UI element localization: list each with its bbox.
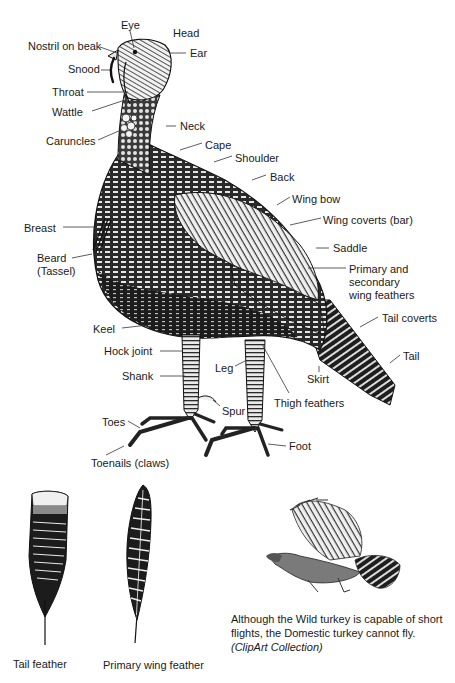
label-toenails: Toenails (claws): [91, 457, 169, 470]
label-throat: Throat: [52, 86, 84, 99]
label-hock-joint: Hock joint: [104, 345, 152, 358]
turkey-anatomy-figure: Eye Head Nostril on beak Ear Snood Throa…: [0, 0, 455, 683]
primary-wing-feather-label: Primary wing feather: [103, 659, 204, 672]
caption-source-text: (ClipArt Collection): [231, 641, 323, 653]
label-cape: Cape: [205, 139, 231, 152]
legs-shape: [130, 335, 282, 455]
label-saddle: Saddle: [333, 242, 367, 255]
primary-wing-feather-illustration: [127, 485, 151, 643]
caption-source: (ClipArt Collection): [231, 640, 455, 654]
label-caruncles: Caruncles: [46, 135, 96, 148]
caption-line-1: Although the Wild turkey is capable of s…: [231, 612, 455, 626]
label-shank: Shank: [122, 370, 153, 383]
label-snood: Snood: [68, 63, 100, 76]
snood-shape: [111, 58, 114, 82]
label-head: Head: [173, 27, 199, 40]
label-skirt: Skirt: [307, 373, 329, 386]
label-foot: Foot: [289, 440, 311, 453]
turkey-illustration: [0, 0, 455, 683]
tail-feather-illustration: [29, 491, 68, 645]
label-shoulder: Shoulder: [235, 152, 279, 165]
label-spur: Spur: [222, 405, 245, 418]
label-neck: Neck: [180, 120, 205, 133]
label-toes: Toes: [102, 416, 125, 429]
label-beard: Beard (Tassel): [37, 252, 76, 278]
caption-line-2: flights, the Domestic turkey cannot fly.: [231, 626, 455, 640]
label-wing-bow: Wing bow: [292, 193, 340, 206]
label-primary-secondary-wing-feathers: Primary and secondary wing feathers: [349, 263, 455, 302]
label-back: Back: [270, 171, 294, 184]
label-wattle: Wattle: [52, 106, 83, 119]
label-breast: Breast: [24, 222, 56, 235]
label-wing-coverts: Wing coverts (bar): [323, 214, 413, 227]
label-thigh-feathers: Thigh feathers: [274, 397, 344, 410]
flying-turkey-illustration: [266, 498, 400, 592]
label-keel: Keel: [93, 323, 115, 336]
label-ear: Ear: [190, 47, 207, 60]
label-eye: Eye: [121, 19, 140, 32]
label-tail: Tail: [403, 350, 420, 363]
figure-caption: Although the Wild turkey is capable of s…: [231, 612, 455, 654]
label-tail-coverts: Tail coverts: [382, 312, 437, 325]
tail-feather-label: Tail feather: [13, 658, 67, 671]
label-nostril-on-beak: Nostril on beak: [28, 40, 101, 53]
label-leg: Leg: [215, 362, 233, 375]
